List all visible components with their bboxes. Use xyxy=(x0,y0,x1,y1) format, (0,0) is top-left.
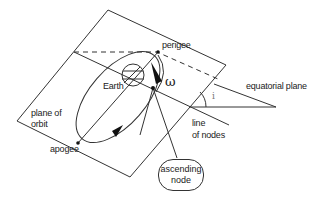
apogee-label: apogee xyxy=(50,144,79,154)
line-of-nodes-label-line1: line xyxy=(192,118,205,128)
ascending-node-label-line2: node xyxy=(159,175,203,186)
omega-arrow-icon xyxy=(151,62,162,84)
ascending-node-box: ascending node xyxy=(158,159,204,191)
earth-label: Earth xyxy=(103,81,124,91)
line-of-nodes-label-line2: of nodes xyxy=(192,130,225,140)
orbit-direction-arrow-icon xyxy=(112,125,123,137)
perigee-label: perigee xyxy=(162,40,191,50)
ascending-node-label-line1: ascending xyxy=(159,164,203,175)
perigee-dot xyxy=(156,50,160,54)
plane-of-orbit-label-line1: plane of xyxy=(31,108,61,118)
ascending-node-dot xyxy=(151,86,155,90)
orbit-diagram xyxy=(0,0,312,202)
equatorial-plane-label: equatorial plane xyxy=(246,81,307,91)
inclination-label: i xyxy=(212,91,215,101)
omega-label: ω xyxy=(165,74,176,89)
plane-of-orbit-label-line2: orbit xyxy=(31,119,48,129)
earth-icon xyxy=(122,64,144,86)
